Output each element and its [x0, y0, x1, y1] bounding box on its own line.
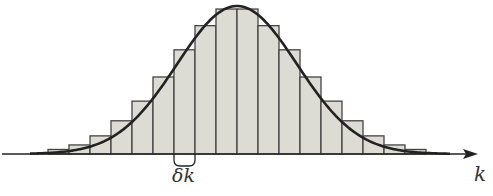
histogram-bar	[132, 101, 153, 154]
delta-k-label: δk	[172, 164, 195, 186]
histogram-bar	[258, 26, 279, 154]
k-axis-label: k	[474, 162, 486, 186]
histogram-bar	[237, 9, 258, 154]
histogram-bar	[216, 9, 237, 154]
histogram-bar	[321, 101, 342, 154]
histogram-bar	[300, 77, 321, 154]
histogram-bars	[48, 9, 426, 154]
histogram-bar	[195, 26, 216, 154]
histogram-bar	[153, 77, 174, 154]
gaussian-histogram-diagram: δk k	[0, 0, 493, 196]
